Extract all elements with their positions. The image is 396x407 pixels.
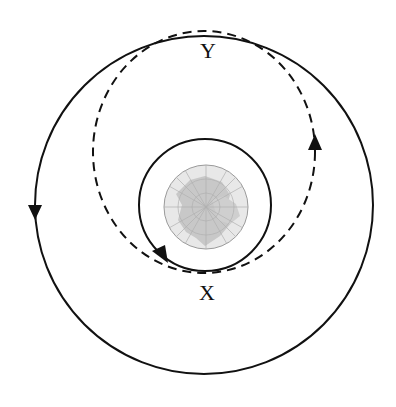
orbit-diagram: Y X xyxy=(0,0,396,407)
earth-icon xyxy=(164,165,248,249)
label-y: Y xyxy=(200,38,216,63)
transfer-orbit-arrow-icon xyxy=(308,134,322,150)
outer-orbit-arrow-icon xyxy=(28,205,42,220)
label-x: X xyxy=(199,280,215,305)
